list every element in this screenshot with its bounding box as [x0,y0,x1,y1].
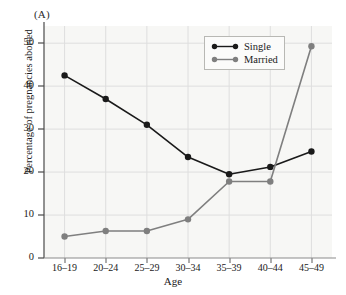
y-tick-label: 30 [8,122,34,133]
x-tick-mark [270,258,272,263]
x-tick-label: 45–49 [284,262,338,273]
data-point-married [185,216,191,222]
legend-entry-single: Single [210,40,278,53]
data-point-single [103,96,109,102]
y-tick-mark [38,214,44,216]
data-point-single [185,154,191,160]
data-point-married [61,233,67,239]
y-tick-label: 0 [8,251,34,262]
data-point-single [61,72,67,78]
y-tick-mark [38,257,44,259]
legend-label-single: Single [244,41,271,52]
x-tick-mark [105,258,107,263]
data-point-married [144,228,150,234]
legend-swatch-married [210,54,240,65]
data-point-married [267,178,273,184]
y-tick-mark [38,171,44,173]
data-point-married [308,43,314,49]
y-tick-label: 50 [8,36,34,47]
figure-panel-a: (A) Percentage of pregnancies aborted 01… [0,0,346,295]
data-point-single [144,122,150,128]
legend-entry-married: Married [210,53,278,66]
x-tick-mark [188,258,190,263]
y-tick-mark [38,128,44,130]
plot-area [44,26,332,258]
data-point-single [308,148,314,154]
data-point-married [226,178,232,184]
legend-label-married: Married [244,54,278,65]
y-tick-label: 10 [8,208,34,219]
y-tick-mark [38,85,44,87]
x-tick-mark [229,258,231,263]
y-tick-mark [38,42,44,44]
y-tick-label: 40 [8,79,34,90]
x-tick-mark [64,258,66,263]
y-axis-title: Percentage of pregnancies aborted [23,34,34,174]
x-axis-title: Age [0,275,346,287]
panel-label: (A) [34,8,50,20]
x-tick-mark [146,258,148,263]
data-point-single [226,171,232,177]
chart-legend: Single Married [204,36,285,70]
legend-swatch-single [210,41,240,52]
y-tick-label: 20 [8,165,34,176]
data-point-married [103,228,109,234]
chart-canvas [44,26,332,258]
x-tick-mark [311,258,313,263]
data-point-single [267,164,273,170]
